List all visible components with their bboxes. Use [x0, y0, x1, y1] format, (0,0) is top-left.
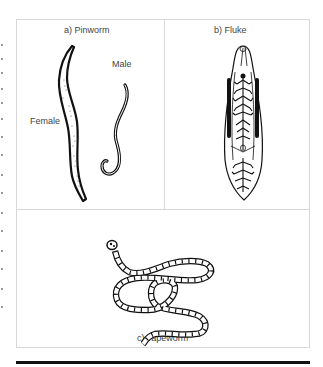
tapeworm-icon — [17, 20, 311, 349]
parasitic-worms-figure: a) Pinworm Female Male b) Fluke — [16, 19, 310, 348]
bottom-rule — [16, 361, 310, 364]
margin-text-fragments — [0, 40, 4, 320]
